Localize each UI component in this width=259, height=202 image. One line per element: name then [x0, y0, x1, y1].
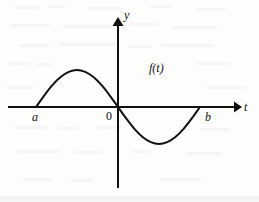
function-graph-figure: y t 0 a b f(t)	[0, 0, 259, 202]
t-axis-arrowhead	[234, 102, 242, 113]
function-name-label: f(t)	[149, 62, 164, 74]
right-root-label-b: b	[205, 111, 211, 123]
plot-canvas	[0, 0, 259, 202]
y-axis-label: y	[124, 9, 129, 21]
y-axis-arrowhead	[113, 17, 124, 26]
origin-label: 0	[106, 110, 112, 122]
t-axis-label: t	[244, 101, 247, 113]
left-root-label-a: a	[32, 111, 38, 123]
